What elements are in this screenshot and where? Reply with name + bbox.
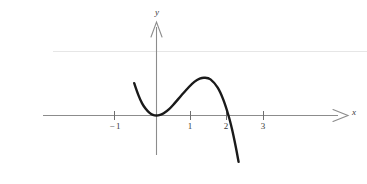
x-tick-label-1: 1 [183, 122, 197, 131]
x-tick-label-neg1-digit: 1 [116, 121, 121, 131]
x-tick-label-2: 2 [219, 122, 233, 131]
x-axis-label: x [352, 108, 356, 117]
x-tick-label-neg1: −1 [104, 122, 126, 131]
math-plot-figure: y x −1 1 2 3 [0, 0, 367, 184]
y-axis-label: y [155, 8, 159, 17]
plot-canvas [0, 0, 367, 184]
minus-sign-glyph: − [109, 122, 114, 131]
x-tick-label-3: 3 [256, 122, 270, 131]
cubic-curve [134, 78, 238, 162]
